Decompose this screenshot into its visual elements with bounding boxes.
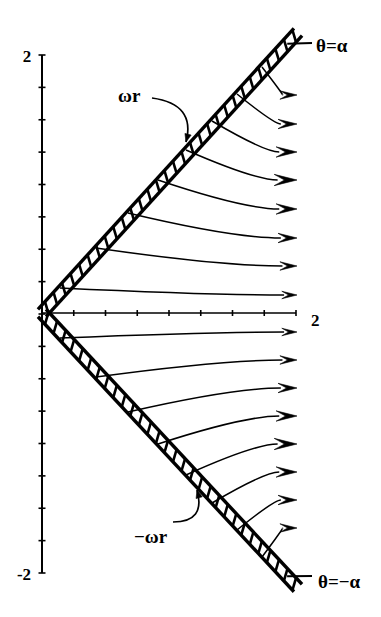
omega-r-label: ωr (118, 85, 141, 106)
axis-label-x-right: 2 (311, 311, 320, 330)
negative-omega-r-label: −ωr (134, 526, 168, 547)
axis-label-y-top: 2 (23, 47, 32, 66)
lower-wall-label: θ=−α (318, 571, 361, 592)
upper-wall-label: θ=α (316, 35, 348, 56)
axis-label-y-bottom: -2 (17, 565, 31, 584)
figure-background (0, 0, 381, 617)
wall-end-stroke (287, 43, 312, 44)
wedge-flow-diagram: 2 -2 2 θ=α θ=−α ωr −ωr (0, 0, 381, 617)
